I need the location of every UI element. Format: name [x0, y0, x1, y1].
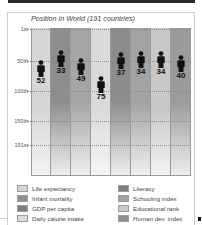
person-icon — [156, 51, 166, 68]
legend-item-literacy: Literacy — [118, 183, 182, 193]
legend-item-gdp-per-capita: GDP per capita — [17, 203, 84, 213]
legend-left: Life expectancy Infant mortality GDP per… — [17, 183, 84, 223]
top-dark-bar — [8, 0, 195, 3]
ytick-191st: 191st — [0, 142, 28, 148]
legend-swatch — [17, 205, 28, 212]
person-icon — [96, 76, 106, 93]
marker-human-dev-index: 40 — [171, 55, 191, 80]
gridline-150th — [27, 121, 191, 122]
legend-swatch — [17, 185, 28, 192]
legend-swatch — [118, 205, 129, 212]
marker-gdp-per-capita: 49 — [71, 58, 91, 83]
legend-label: Human dev. index — [133, 215, 182, 222]
column-daily-calorie-intake — [91, 28, 111, 176]
gridline-1st — [27, 29, 191, 30]
legend-swatch — [118, 215, 129, 222]
ytick-100th: 100th — [0, 88, 28, 94]
marker-schooling-index: 34 — [131, 51, 151, 76]
plot-baseline — [31, 175, 191, 176]
person-icon — [176, 55, 186, 72]
marker-infant-mortality: 33 — [51, 50, 71, 75]
edge-marker — [198, 217, 201, 221]
column-life-expectancy — [31, 28, 51, 176]
person-icon — [76, 58, 86, 75]
column-human-dev-index — [171, 28, 191, 176]
rank-value: 75 — [91, 93, 111, 101]
rank-value: 33 — [51, 67, 71, 75]
rank-value: 34 — [131, 68, 151, 76]
gridline-191st — [27, 145, 191, 146]
rank-value: 49 — [71, 75, 91, 83]
legend-item-infant-mortality: Infant mortality — [17, 193, 84, 203]
rank-value: 40 — [171, 72, 191, 80]
legend-label: Daily calorie intake — [32, 215, 84, 222]
ytick-150th: 150th — [0, 118, 28, 124]
marker-daily-calorie-intake: 75 — [91, 76, 111, 101]
legend-swatch — [17, 195, 28, 202]
rank-value: 34 — [151, 68, 171, 76]
legend-item-human-dev-index: Human dev. index — [118, 213, 182, 223]
column-gdp-per-capita — [71, 28, 91, 176]
column-literacy — [111, 28, 131, 176]
rank-value: 52 — [31, 77, 51, 85]
marker-literacy: 37 — [111, 52, 131, 77]
legend-label: GDP per capita — [32, 205, 74, 212]
chart-title: Position in World (191 countries) — [31, 14, 135, 23]
person-icon — [36, 60, 46, 77]
legend-label: Infant mortality — [32, 195, 73, 202]
legend-label: Educational rank — [133, 205, 179, 212]
divider-line — [0, 218, 7, 219]
legend-swatch — [118, 195, 129, 202]
ytick-1st: 1st — [0, 26, 28, 32]
legend-label: Life expectancy — [32, 185, 75, 192]
legend-item-daily-calorie-intake: Daily calorie intake — [17, 213, 84, 223]
rank-value: 37 — [111, 69, 131, 77]
legend-swatch — [118, 185, 129, 192]
person-icon — [56, 50, 66, 67]
marker-life-expectancy: 52 — [31, 60, 51, 85]
legend-right: Literacy Schooling index Educational ran… — [118, 183, 182, 223]
legend-swatch — [17, 215, 28, 222]
legend-item-schooling-index: Schooling index — [118, 193, 182, 203]
person-icon — [116, 52, 126, 69]
legend-item-educational-rank: Educational rank — [118, 203, 182, 213]
plot-area: 52 33 49 75 37 34 34 40 — [31, 28, 191, 176]
legend-label: Literacy — [133, 185, 155, 192]
legend-label: Schooling index — [133, 195, 177, 202]
person-icon — [136, 51, 146, 68]
ytick-50th: 50th — [0, 58, 28, 64]
marker-educational-rank: 34 — [151, 51, 171, 76]
legend-item-life-expectancy: Life expectancy — [17, 183, 84, 193]
